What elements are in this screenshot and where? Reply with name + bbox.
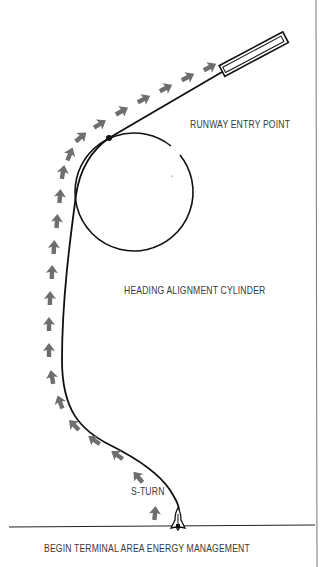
frame-right-border — [316, 0, 317, 567]
heading-alignment-circle — [75, 133, 193, 251]
heading-alignment-cylinder-label: HEADING ALIGNMENT CYLINDER — [124, 284, 265, 296]
baseline — [9, 525, 315, 527]
runway-entry-point-marker — [106, 135, 112, 141]
space-shuttle-icon — [171, 508, 185, 530]
begin-tam-label: BEGIN TERMINAL AREA ENERGY MANAGEMENT — [44, 542, 250, 554]
runway-icon — [219, 32, 288, 76]
s-turn-label: S-TURN — [131, 485, 165, 497]
runway-entry-point-label: RUNWAY ENTRY POINT — [190, 118, 290, 130]
